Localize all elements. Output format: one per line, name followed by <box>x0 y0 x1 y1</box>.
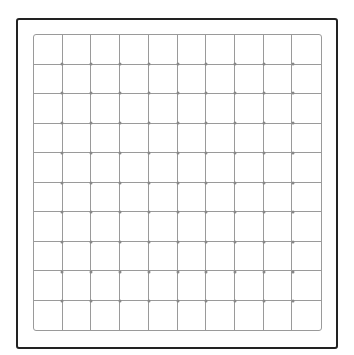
intersection-dot <box>292 181 295 184</box>
grid-cell <box>63 212 92 242</box>
intersection-dot <box>234 151 237 154</box>
grid-cell <box>235 124 264 154</box>
grid-cell <box>120 124 149 154</box>
grid-cell <box>91 153 120 183</box>
intersection-dot <box>176 211 179 214</box>
intersection-dot <box>292 270 295 273</box>
intersection-dot <box>292 92 295 95</box>
intersection-dot <box>292 300 295 303</box>
grid-cell <box>206 65 235 95</box>
grid-cell <box>292 271 321 301</box>
intersection-dot <box>147 122 150 125</box>
grid-cell <box>206 301 235 331</box>
intersection-dot <box>118 240 121 243</box>
grid-cell <box>206 242 235 272</box>
intersection-dot <box>263 240 266 243</box>
intersection-dot <box>147 151 150 154</box>
grid-cell <box>34 212 63 242</box>
grid-cell <box>120 65 149 95</box>
grid-cell <box>178 271 207 301</box>
grid-cell <box>264 124 293 154</box>
grid-cell <box>235 153 264 183</box>
grid-cell <box>63 271 92 301</box>
grid-cell <box>178 242 207 272</box>
grid-cell <box>235 242 264 272</box>
intersection-dot <box>263 211 266 214</box>
intersection-dot <box>118 151 121 154</box>
intersection-dot <box>205 270 208 273</box>
intersection-dot <box>205 62 208 65</box>
grid-cell <box>264 183 293 213</box>
intersection-dot <box>176 92 179 95</box>
grid-cell <box>120 212 149 242</box>
intersection-dot <box>118 92 121 95</box>
grid-cell <box>34 65 63 95</box>
grid-cell <box>120 242 149 272</box>
intersection-dot <box>176 300 179 303</box>
grid-cell <box>264 35 293 65</box>
grid-cell <box>91 124 120 154</box>
intersection-dot <box>263 62 266 65</box>
intersection-dot <box>234 122 237 125</box>
intersection-dot <box>176 270 179 273</box>
grid-cell <box>149 94 178 124</box>
intersection-dot <box>263 151 266 154</box>
intersection-dot <box>292 62 295 65</box>
grid-cell <box>235 183 264 213</box>
grid-cell <box>292 94 321 124</box>
grid-cell <box>91 35 120 65</box>
grid-cell <box>292 183 321 213</box>
grid-cell <box>264 301 293 331</box>
grid-cell <box>292 35 321 65</box>
grid-cell <box>91 242 120 272</box>
intersection-dot <box>89 181 92 184</box>
intersection-dot <box>118 270 121 273</box>
grid-cell <box>264 212 293 242</box>
intersection-dot <box>89 270 92 273</box>
intersection-dot <box>89 151 92 154</box>
intersection-dot <box>60 300 63 303</box>
intersection-dot <box>147 181 150 184</box>
grid-cell <box>178 35 207 65</box>
intersection-dot <box>205 122 208 125</box>
intersection-dot <box>263 270 266 273</box>
grid-cell <box>178 94 207 124</box>
intersection-dot <box>89 122 92 125</box>
grid-cell <box>178 65 207 95</box>
intersection-dot <box>147 62 150 65</box>
intersection-dot <box>147 300 150 303</box>
intersection-dot <box>176 181 179 184</box>
intersection-dot <box>118 300 121 303</box>
intersection-dot <box>205 92 208 95</box>
grid-cell <box>264 153 293 183</box>
grid-cell <box>91 271 120 301</box>
intersection-dot <box>147 92 150 95</box>
grid-cell <box>91 212 120 242</box>
grid-cell <box>178 183 207 213</box>
intersection-dot <box>89 62 92 65</box>
intersection-dot <box>176 240 179 243</box>
grid-cell <box>63 301 92 331</box>
intersection-dot <box>60 151 63 154</box>
grid-cell <box>149 242 178 272</box>
intersection-dot <box>60 122 63 125</box>
grid-cell <box>206 35 235 65</box>
grid-cell <box>120 301 149 331</box>
intersection-dot <box>176 151 179 154</box>
intersection-dot <box>89 211 92 214</box>
grid-cell <box>178 212 207 242</box>
intersection-dot <box>147 211 150 214</box>
grid-cell <box>292 212 321 242</box>
intersection-dot <box>234 181 237 184</box>
grid-cell <box>63 124 92 154</box>
intersection-dot <box>234 211 237 214</box>
intersection-dot <box>234 92 237 95</box>
grid-cell <box>235 301 264 331</box>
grid-cell <box>149 271 178 301</box>
intersection-dot <box>205 151 208 154</box>
grid-cell <box>264 242 293 272</box>
intersection-dot <box>89 300 92 303</box>
grid-cell <box>206 183 235 213</box>
grid-cell <box>149 183 178 213</box>
grid-cell <box>149 301 178 331</box>
